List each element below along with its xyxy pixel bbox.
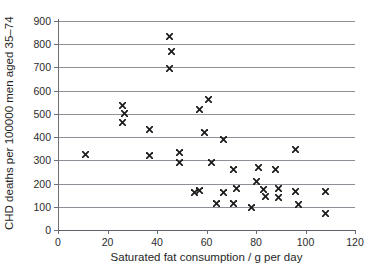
gridline-y-200 xyxy=(58,184,355,185)
y-tick-600 xyxy=(54,91,59,92)
y-tick-label-100: 100 xyxy=(33,202,51,213)
gridline-y-900 xyxy=(58,21,355,22)
x-tick-label-100: 100 xyxy=(297,237,315,248)
gridline-y-500 xyxy=(58,114,355,115)
x-tick-label-80: 80 xyxy=(250,237,262,248)
y-tick-900 xyxy=(54,21,59,22)
y-tick-300 xyxy=(54,160,59,161)
y-tick-label-500: 500 xyxy=(33,109,51,120)
y-axis-title: CHD deaths per 100000 men aged 35–74 xyxy=(2,21,16,230)
scatter-plot-figure: CHD deaths per 100000 men aged 35–74 Sat… xyxy=(0,0,377,273)
x-tick-label-0: 0 xyxy=(55,237,61,248)
y-tick-label-900: 900 xyxy=(33,16,51,27)
gridline-y-600 xyxy=(58,91,355,92)
y-tick-400 xyxy=(54,137,59,138)
y-tick-500 xyxy=(54,114,59,115)
x-tick-label-60: 60 xyxy=(201,237,213,248)
x-tick-label-40: 40 xyxy=(151,237,163,248)
y-tick-label-300: 300 xyxy=(33,155,51,166)
y-tick-label-600: 600 xyxy=(33,85,51,96)
gridline-y-400 xyxy=(58,137,355,138)
x-tick-100 xyxy=(306,230,307,234)
y-tick-label-200: 200 xyxy=(33,178,51,189)
x-tick-20 xyxy=(108,230,109,234)
gridline-y-300 xyxy=(58,160,355,161)
x-tick-60 xyxy=(207,230,208,234)
y-tick-800 xyxy=(54,44,59,45)
plot-area: 0100200300400500600700800900 02040608010… xyxy=(58,21,355,230)
gridline-y-800 xyxy=(58,44,355,45)
y-tick-label-0: 0 xyxy=(45,225,51,236)
x-axis-title: Saturated fat consumption / g per day xyxy=(58,250,355,264)
x-tick-label-20: 20 xyxy=(102,237,114,248)
gridlines xyxy=(58,21,355,230)
y-tick-100 xyxy=(54,207,59,208)
x-tick-label-120: 120 xyxy=(346,237,364,248)
y-tick-200 xyxy=(54,184,59,185)
gridline-y-700 xyxy=(58,67,355,68)
y-tick-label-800: 800 xyxy=(33,39,51,50)
x-tick-80 xyxy=(256,230,257,234)
x-tick-40 xyxy=(157,230,158,234)
y-tick-700 xyxy=(54,67,59,68)
x-tick-120 xyxy=(355,230,356,234)
y-tick-label-400: 400 xyxy=(33,132,51,143)
y-tick-label-700: 700 xyxy=(33,62,51,73)
x-tick-0 xyxy=(58,230,59,234)
gridline-y-100 xyxy=(58,207,355,208)
